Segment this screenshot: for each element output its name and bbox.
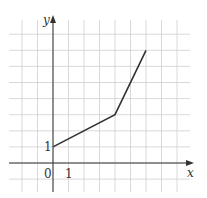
y-axis-label: y [42,13,50,27]
grid-lines [9,20,190,192]
y-tick-label-1: 1 [44,140,52,154]
x-tick-label-1: 1 [65,167,73,181]
x-axis-label: x [187,166,194,180]
axes [9,15,194,192]
line-chart: y x 0 1 1 [0,0,207,198]
origin-tick-label: 0 [44,167,52,181]
